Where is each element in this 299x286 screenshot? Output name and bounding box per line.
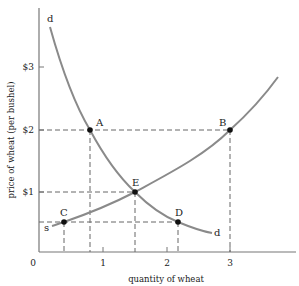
- point-label-E: E: [132, 177, 139, 188]
- x-tick-label-3: 3: [227, 258, 233, 268]
- origin-label: 0: [30, 258, 36, 268]
- x-tick-label-1: 1: [100, 258, 106, 268]
- point-label-B: B: [219, 117, 226, 128]
- demand-label-end: d: [214, 227, 221, 238]
- point-B: [227, 127, 233, 133]
- supply-demand-chart: A B E C D d d s $3 $2 $1 0 1 2 3 quantit…: [0, 0, 299, 286]
- point-E: [132, 189, 138, 195]
- y-tick-label-2: $2: [23, 125, 34, 135]
- y-axis-title: price of wheat (per bushel): [6, 81, 16, 198]
- x-tick-label-2: 2: [164, 258, 170, 268]
- point-label-D: D: [175, 207, 183, 218]
- point-label-C: C: [60, 207, 68, 218]
- point-A: [87, 127, 93, 133]
- supply-label-start: s: [44, 222, 49, 233]
- point-label-A: A: [95, 117, 104, 128]
- y-tick-label-1: $1: [23, 187, 34, 197]
- supply-curve: [52, 77, 278, 226]
- demand-label-start: d: [47, 13, 54, 24]
- point-C: [61, 219, 67, 225]
- x-axis-title: quantity of wheat: [128, 274, 204, 284]
- point-D: [175, 219, 181, 225]
- y-tick-label-3: $3: [23, 62, 35, 72]
